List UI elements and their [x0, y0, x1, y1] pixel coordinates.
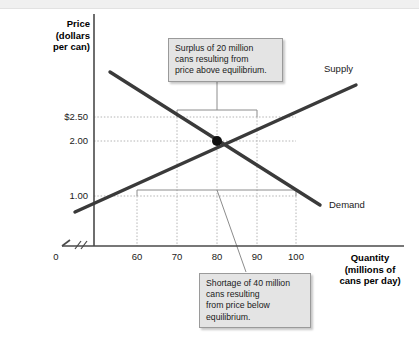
origin-label: 0	[49, 251, 63, 262]
demand-curve-label: Demand	[329, 199, 365, 210]
origin-stub	[62, 240, 70, 246]
supply-curve	[75, 85, 356, 212]
x-tick-label-90: 90	[240, 251, 274, 262]
supply-curve-label: Supply	[324, 63, 353, 74]
x-tick-label-70: 70	[160, 251, 194, 262]
surplus-annotation-box: Surplus of 20 million cans resulting fro…	[168, 38, 283, 82]
x-tick-label-100: 100	[279, 251, 313, 262]
x-tick-label-80: 80	[200, 251, 234, 262]
surplus-bracket	[177, 110, 257, 117]
x-axis-title: Quantity (millions of cans per day)	[323, 252, 417, 287]
y-tick-label-100: 1.00	[32, 190, 88, 201]
guide-lines	[94, 117, 296, 246]
axis-break-marks	[75, 241, 87, 249]
equilibrium-point	[212, 136, 222, 146]
supply-demand-figure: Price (dollars per can) Quantity (millio…	[0, 0, 419, 339]
y-axis-title: Price (dollars per can)	[14, 18, 90, 53]
y-tick-label-200: 2.00	[32, 135, 88, 146]
y-tick-label-250: $2.50	[32, 111, 88, 122]
x-tick-label-60: 60	[120, 251, 154, 262]
plot-area: Price (dollars per can) Quantity (millio…	[0, 0, 419, 339]
shortage-annotation-box: Shortage of 40 million cans resulting fr…	[199, 273, 311, 328]
